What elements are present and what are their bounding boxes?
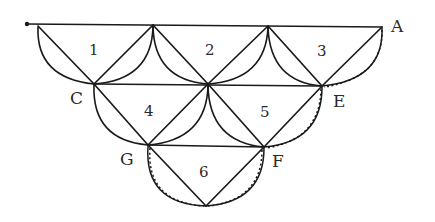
region-label-4: 4 — [144, 102, 154, 120]
point-label-a: A — [390, 16, 404, 36]
region-label-3: 3 — [317, 42, 327, 60]
region-label-1: 1 — [89, 41, 99, 59]
smooth-arcs — [38, 26, 322, 147]
point-label-f: F — [272, 151, 284, 171]
region-label-2: 2 — [205, 41, 215, 59]
region-label-6: 6 — [199, 163, 209, 181]
point-label-e: E — [333, 91, 345, 111]
top-baseline — [25, 22, 382, 27]
triangle-arc-diagram: 1 2 3 4 5 6 A C E G F — [0, 0, 435, 222]
point-label-c: C — [70, 88, 83, 108]
point-label-g: G — [120, 149, 134, 169]
lower-line — [148, 145, 264, 147]
region-label-5: 5 — [260, 103, 270, 121]
